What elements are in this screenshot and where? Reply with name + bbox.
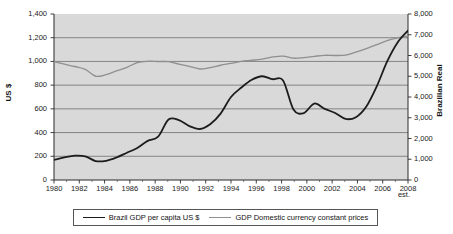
y-axis-right-tick-label: 1,000 [414,155,448,163]
chart-container: US $ Brazilian Real 02004006008001,0001,… [0,0,453,234]
y-axis-left-tick-label: 1,200 [13,34,47,42]
y-axis-left-tick-label: 1,400 [13,10,47,18]
y-axis-right-tick-label: 5,000 [414,72,448,80]
y-axis-left-tick-label: 400 [13,129,47,137]
legend-entry-0[interactable]: Brazil GDP per capita US $ [83,213,200,222]
x-axis-estimate-note: est. [389,190,419,199]
y-axis-left-tick-label: 200 [13,152,47,160]
y-axis-right-tick-label: 2,000 [414,135,448,143]
y-axis-right-tick-label: 4,000 [414,93,448,101]
plot-area [0,0,453,234]
y-axis-left-tick-label: 800 [13,81,47,89]
y-axis-left-tick-label: 0 [13,176,47,184]
legend-line-swatch-icon [209,217,231,218]
legend-label: GDP Domestic currency constant prices [235,213,368,222]
legend-line-swatch-icon [83,217,105,218]
y-axis-right-tick-label: 6,000 [414,52,448,60]
y-axis-right-tick-label: 0 [414,176,448,184]
legend-label: Brazil GDP per capita US $ [109,213,200,222]
y-axis-left-tick-label: 600 [13,105,47,113]
y-axis-right-tick-label: 7,000 [414,31,448,39]
y-axis-right-tick-label: 8,000 [414,10,448,18]
legend-entry-1[interactable]: GDP Domestic currency constant prices [209,213,368,222]
y-axis-left-title: US $ [4,68,13,118]
y-axis-left-tick-label: 1,000 [13,57,47,65]
y-axis-right-tick-label: 3,000 [414,114,448,122]
chart-legend: Brazil GDP per capita US $GDP Domestic c… [73,209,378,226]
